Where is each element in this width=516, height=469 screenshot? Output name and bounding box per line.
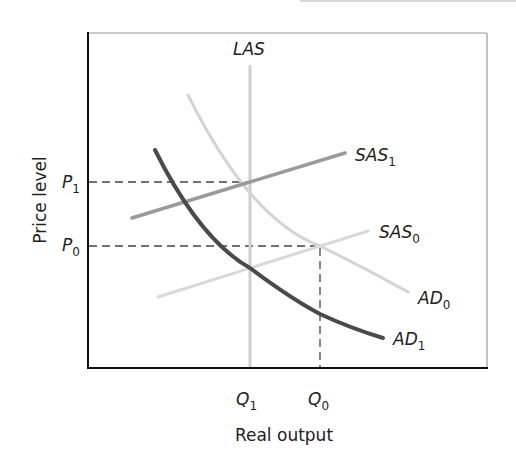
- p0-tick-label: P0: [62, 235, 80, 259]
- sas0-label: SAS0: [379, 222, 420, 246]
- las-label: LAS: [233, 39, 265, 59]
- x-axis-title: Real output: [235, 425, 333, 445]
- q0-tick-label: Q0: [308, 389, 329, 413]
- ad1-curve: [155, 150, 383, 338]
- sas1-curve: [132, 153, 345, 218]
- q1-tick-label: Q1: [236, 389, 257, 413]
- ad0-label: AD0: [417, 288, 450, 312]
- y-axis-title: Price level: [30, 156, 50, 243]
- as-ad-diagram: LAS SAS1 SAS0 AD0 AD1 P1 P0 Q1 Q0 Real o…: [0, 0, 516, 469]
- p1-tick-label: P1: [62, 172, 80, 196]
- sas1-label: SAS1: [355, 145, 396, 169]
- ad0-curve: [188, 95, 408, 292]
- sas0-curve: [158, 231, 368, 297]
- ad1-label: AD1: [392, 329, 425, 353]
